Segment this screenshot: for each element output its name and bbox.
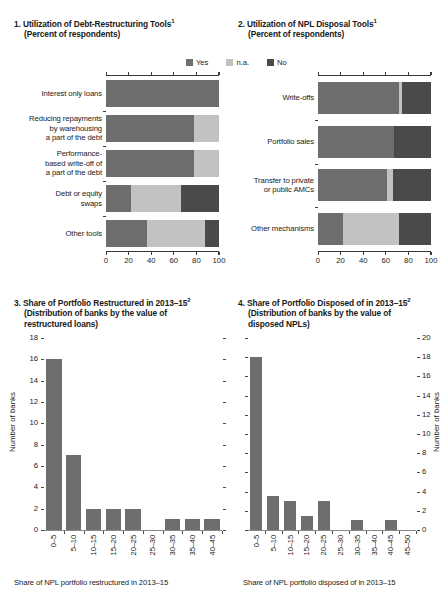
bar-segment-na	[131, 185, 181, 212]
y-tick	[41, 359, 44, 360]
x-category-label: 35–40	[188, 535, 197, 555]
y-tick-mirror	[223, 359, 226, 360]
histogram-bar	[351, 520, 363, 530]
x-tick	[315, 531, 316, 534]
x-category-label: 5–10	[69, 535, 78, 551]
y-tick	[41, 445, 44, 446]
row-tick	[315, 164, 318, 165]
histogram-bar	[106, 509, 121, 530]
panel-1: 1. Utilization of Debt-Restructuring Too…	[14, 16, 224, 40]
category-label-line: a part of the debt	[6, 168, 102, 177]
x-tick-label: 20	[330, 256, 352, 265]
x-tick-label: 0	[95, 256, 117, 265]
panel-3-title-text: Share of Portfolio Restructured in 2013–…	[23, 298, 187, 308]
x-category-label: 20–25	[129, 535, 138, 555]
panel-2-number: 2.	[238, 19, 245, 29]
y-tick-label: 6	[422, 467, 440, 476]
category-label-line: Write-offs	[232, 93, 314, 102]
bar-segment-no	[393, 169, 431, 201]
y-tick-label: 16	[422, 371, 440, 380]
x-tick	[84, 531, 85, 534]
bar-segment-yes	[318, 82, 399, 114]
x-axis-baseline	[248, 530, 416, 531]
x-category-label: 15–20	[302, 535, 311, 555]
x-tick	[366, 531, 367, 534]
y-tick-label: 16	[22, 354, 38, 363]
x-tick	[173, 72, 174, 75]
y-tick	[417, 357, 420, 358]
y-tick-label: 2	[22, 504, 38, 513]
y-axis-title: Number of banks	[8, 392, 17, 452]
x-category-label: 30–35	[168, 535, 177, 555]
bar-segment-na	[387, 169, 393, 201]
y-tick-mirror	[223, 530, 226, 531]
x-tick	[123, 531, 124, 534]
stacked-bar-row	[318, 213, 431, 245]
panel-3-subtitle-line-2: restructured loans)	[14, 319, 98, 330]
histogram-bar	[66, 455, 81, 530]
y-tick-label: 18	[422, 352, 440, 361]
category-label-line: a part of the debt	[6, 133, 102, 142]
y-tick-label: 12	[22, 397, 38, 406]
panel-1-title-text: Utilization of Debt-Restructuring Tools	[23, 19, 171, 29]
legend-label: n.a.	[236, 58, 249, 67]
x-tick	[349, 531, 350, 534]
y-tick-label: 14	[22, 376, 38, 385]
legend-swatch-icon	[186, 59, 193, 66]
x-tick-label: 80	[397, 256, 419, 265]
x-tick	[202, 531, 203, 534]
panel-4-subtitle-line-1: (Distribution of banks by the value of	[238, 308, 391, 319]
y-tick-label: 4	[422, 487, 440, 496]
stacked-bar-row	[106, 80, 219, 107]
y-tick-mirror	[223, 466, 226, 467]
y-tick-mirror	[223, 423, 226, 424]
x-tick	[363, 252, 364, 255]
x-category-label: 5–10	[269, 535, 278, 551]
stacked-bar-row	[106, 185, 219, 212]
category-label: Transfer to privateor public AMCs	[232, 176, 314, 195]
y-axis-title: Number of banks	[432, 392, 441, 452]
x-category-label: 40–45	[386, 535, 395, 555]
x-category-label: 10–15	[89, 535, 98, 555]
x-tick	[416, 531, 417, 534]
row-tick	[315, 120, 318, 121]
y-tick-label: 4	[22, 482, 38, 491]
x-tick	[103, 531, 104, 534]
y-tick-mirror	[245, 357, 248, 358]
y-tick	[41, 423, 44, 424]
y-tick-mirror	[223, 402, 226, 403]
x-category-label: 30–35	[353, 535, 362, 555]
x-tick	[163, 531, 164, 534]
y-tick-label: 8	[22, 440, 38, 449]
histogram-bar	[301, 516, 313, 530]
x-tick	[431, 252, 432, 255]
y-tick-label: 2	[422, 506, 440, 515]
x-tick-label: 100	[208, 256, 230, 265]
y-tick	[417, 396, 420, 397]
stacked-bar-row	[318, 126, 431, 158]
y-tick	[417, 376, 420, 377]
panel-4-title: 4. Share of Portfolio Disposed of in 201…	[238, 295, 446, 330]
category-label-line: based write-off of	[6, 159, 102, 168]
histogram-bar	[165, 519, 180, 530]
row-tick	[315, 207, 318, 208]
x-tick	[431, 72, 432, 75]
y-tick	[417, 434, 420, 435]
stacked-bar-row	[318, 169, 431, 201]
y-tick-label: 0	[22, 525, 38, 534]
x-tick	[399, 531, 400, 534]
panel-2-subtitle: (Percent of respondents)	[238, 29, 344, 40]
stacked-bar-row	[106, 150, 219, 177]
y-tick-label: 0	[422, 525, 440, 534]
bar-segment-yes	[106, 150, 194, 177]
histogram-bar	[385, 520, 397, 530]
y-tick-mirror	[245, 415, 248, 416]
y-tick-label: 6	[22, 461, 38, 470]
x-tick	[298, 531, 299, 534]
x-tick	[408, 72, 409, 75]
y-tick	[41, 338, 44, 339]
panel-4-footnote-marker: 2	[407, 297, 410, 303]
y-tick-label: 8	[422, 448, 440, 457]
x-tick-label: 40	[352, 256, 374, 265]
category-label-line: by warehousing	[6, 124, 102, 133]
